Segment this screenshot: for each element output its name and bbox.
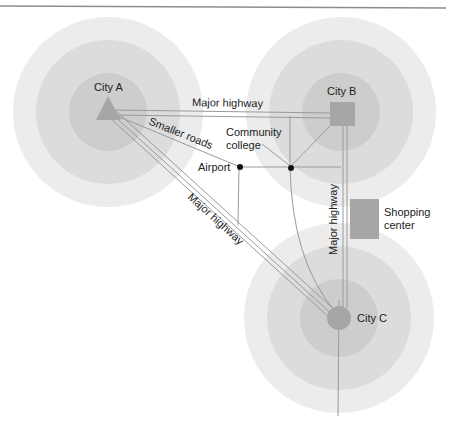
city-c-marker	[327, 306, 351, 330]
city-b-marker	[330, 102, 355, 126]
airport-node	[237, 164, 243, 170]
city-b-label: City B	[327, 85, 356, 97]
college-node	[288, 165, 294, 171]
region-diagram: City A City B City C Major highway Small…	[0, 0, 459, 429]
shopping-center-marker	[350, 199, 379, 239]
community-college-label-1: Community	[226, 126, 282, 138]
community-college-label-2: college	[226, 139, 261, 151]
shopping-center-label-2: center	[384, 219, 415, 231]
top-rule	[0, 6, 446, 8]
city-a-label: City A	[94, 81, 123, 93]
city-c-label: City C	[357, 312, 387, 324]
highway-ac-label: Major highway	[186, 191, 247, 248]
shopping-center-label-1: Shopping	[384, 206, 431, 218]
highway-bc-label: Major highway	[327, 184, 339, 255]
highway-ab-label: Major highway	[192, 96, 264, 109]
airport-label: Airport	[198, 161, 230, 173]
